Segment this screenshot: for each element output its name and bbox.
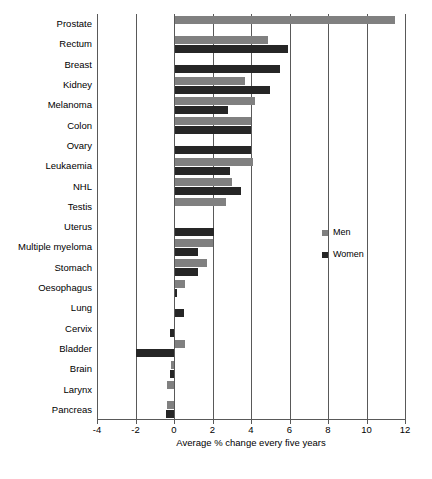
y-axis-label-multiple-myeloma: Multiple myeloma <box>0 241 92 252</box>
x-tick-label: 12 <box>400 424 411 435</box>
y-axis-label-brain: Brain <box>0 363 92 374</box>
zero-line <box>174 14 175 420</box>
y-axis-label-lung: Lung <box>0 302 92 313</box>
bar-women-pancreas <box>166 410 174 418</box>
bar-women-stomach <box>174 268 198 276</box>
bar-men-rectum <box>174 36 268 44</box>
bar-rows <box>97 14 405 420</box>
bar-men-leukaemia <box>174 158 253 166</box>
bar-group <box>97 156 405 176</box>
bar-group <box>97 298 405 318</box>
bar-group <box>97 400 405 420</box>
bar-group <box>97 278 405 298</box>
x-tick-label: 8 <box>325 424 330 435</box>
bar-group <box>97 34 405 54</box>
y-axis-label-bladder: Bladder <box>0 343 92 354</box>
y-axis-label-leukaemia: Leukaemia <box>0 160 92 171</box>
bar-group <box>97 319 405 339</box>
bar-men-pancreas <box>167 401 174 409</box>
bar-women-colon <box>174 126 251 134</box>
x-axis-ticks: -4-2024681012 <box>97 420 405 436</box>
legend-label-men: Men <box>333 227 351 238</box>
y-axis-category-labels: ProstateRectumBreastKidneyMelanomaColonO… <box>0 14 92 420</box>
bar-group <box>97 14 405 34</box>
bar-group <box>97 176 405 196</box>
x-tick-label: -2 <box>131 424 139 435</box>
y-axis-label-nhl: NHL <box>0 181 92 192</box>
bar-men-kidney <box>174 77 245 85</box>
bar-group <box>97 197 405 217</box>
legend-label-women: Women <box>333 249 364 260</box>
bar-women-ovary <box>174 146 251 154</box>
legend-item-women: Women <box>322 249 364 260</box>
y-axis-label-larynx: Larynx <box>0 384 92 395</box>
bar-group <box>97 75 405 95</box>
bar-men-bladder <box>174 340 185 348</box>
bar-group <box>97 359 405 379</box>
x-axis-title: Average % change every five years <box>97 437 405 449</box>
x-tick-label: 10 <box>361 424 372 435</box>
bar-women-nhl <box>174 187 241 195</box>
bar-men-multiple-myeloma <box>174 239 213 247</box>
y-axis-label-testis: Testis <box>0 201 92 212</box>
bar-group <box>97 379 405 399</box>
x-tick-label: 0 <box>171 424 176 435</box>
y-axis-label-colon: Colon <box>0 120 92 131</box>
bar-women-bladder <box>136 349 175 357</box>
bar-men-oesophagus <box>174 280 185 288</box>
chart-legend: Men Women <box>322 227 364 271</box>
bar-women-rectum <box>174 45 288 53</box>
y-axis-label-melanoma: Melanoma <box>0 99 92 110</box>
y-axis-label-stomach: Stomach <box>0 262 92 273</box>
y-axis-label-cervix: Cervix <box>0 323 92 334</box>
y-axis-label-rectum: Rectum <box>0 38 92 49</box>
bar-group <box>97 55 405 75</box>
bar-women-lung <box>174 309 184 317</box>
bar-women-breast <box>174 65 280 73</box>
x-tick-label: 6 <box>287 424 292 435</box>
bar-women-melanoma <box>174 106 228 114</box>
y-axis-label-uterus: Uterus <box>0 221 92 232</box>
bar-women-kidney <box>174 86 270 94</box>
bar-group <box>97 116 405 136</box>
bar-men-testis <box>174 198 226 206</box>
y-axis-label-kidney: Kidney <box>0 79 92 90</box>
bar-men-stomach <box>174 259 207 267</box>
y-axis-label-breast: Breast <box>0 59 92 70</box>
bar-women-uterus <box>174 228 214 236</box>
legend-swatch-women-icon <box>322 252 328 258</box>
y-axis-label-ovary: Ovary <box>0 140 92 151</box>
bar-men-nhl <box>174 178 232 186</box>
bar-men-prostate <box>174 16 395 24</box>
y-axis-label-pancreas: Pancreas <box>0 404 92 415</box>
y-axis-label-prostate: Prostate <box>0 18 92 29</box>
legend-item-men: Men <box>322 227 364 238</box>
bar-group <box>97 339 405 359</box>
gridline-12 <box>405 14 406 420</box>
bar-men-colon <box>174 117 251 125</box>
plot-area <box>97 14 405 420</box>
bar-women-leukaemia <box>174 167 230 175</box>
x-tick-label: 4 <box>248 424 253 435</box>
bar-men-larynx <box>167 381 174 389</box>
bar-group <box>97 95 405 115</box>
bar-women-multiple-myeloma <box>174 248 198 256</box>
bar-group <box>97 136 405 156</box>
x-tick-label: -4 <box>93 424 101 435</box>
bar-chart: ProstateRectumBreastKidneyMelanomaColonO… <box>0 0 432 479</box>
legend-swatch-men-icon <box>322 230 328 236</box>
bar-men-melanoma <box>174 97 255 105</box>
x-tick-label: 2 <box>210 424 215 435</box>
y-axis-label-oesophagus: Oesophagus <box>0 282 92 293</box>
